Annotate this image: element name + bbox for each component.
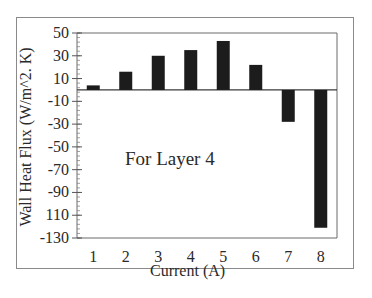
y-tick-label: 50: [53, 24, 69, 41]
chart-annotation: For Layer 4: [125, 148, 215, 170]
x-tick-label: 2: [122, 248, 130, 265]
x-tick-label: 8: [317, 248, 325, 265]
x-tick-label: 1: [89, 248, 97, 265]
x-tick-label: 7: [284, 248, 292, 265]
y-tick-label: -50: [48, 138, 69, 155]
bar-1: [87, 85, 100, 90]
bar-3: [152, 56, 165, 90]
y-tick-label: 110: [46, 206, 69, 223]
bar-8: [314, 90, 327, 228]
y-tick-label: -70: [48, 161, 69, 178]
y-tick-label: -10: [48, 92, 69, 109]
bar-7: [282, 90, 295, 122]
x-axis-label: Current (A): [150, 262, 225, 280]
y-axis-label: Wall Heat Flux (W/m^2. K): [17, 27, 35, 247]
x-tick-label: 6: [252, 248, 260, 265]
bar-6: [249, 65, 262, 90]
bar-5: [217, 41, 230, 90]
bar-4: [184, 50, 197, 90]
y-tick-label: -30: [48, 115, 69, 132]
y-tick-label: -130: [40, 229, 69, 246]
bar-2: [119, 72, 132, 90]
y-tick-label: 30: [53, 47, 69, 64]
y-tick-label: 10: [53, 70, 69, 87]
y-tick-label: -90: [48, 183, 69, 200]
